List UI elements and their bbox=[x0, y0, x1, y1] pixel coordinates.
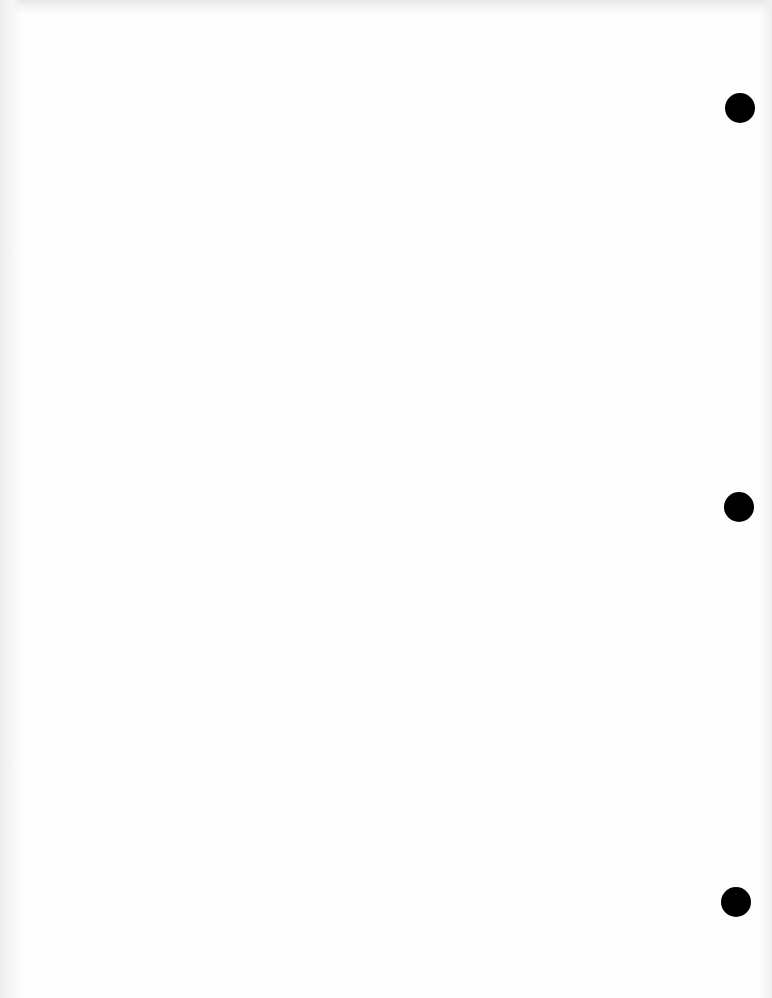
punch-hole-bottom bbox=[721, 887, 751, 917]
scan-shadow-left bbox=[0, 0, 22, 998]
punch-hole-top bbox=[725, 93, 755, 123]
scan-shadow-top bbox=[0, 0, 772, 14]
punch-hole-middle bbox=[724, 492, 754, 522]
scan-shadow-right bbox=[760, 0, 772, 998]
blank-page bbox=[0, 0, 772, 998]
